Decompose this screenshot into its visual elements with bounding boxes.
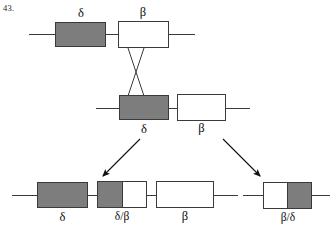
bottom-gene-beta-box xyxy=(177,94,226,121)
left-product-beta-label: β xyxy=(156,209,214,223)
bottom-beta-label: β xyxy=(177,121,226,135)
top-delta-label: δ xyxy=(56,6,106,20)
left-product-delta-beta-label: δ/β xyxy=(95,210,149,223)
left-product-gene-delta-beta-box xyxy=(97,181,147,208)
top-beta-label: β xyxy=(118,5,168,19)
left-product-gene-beta-box xyxy=(156,181,214,208)
top-gene-beta-box xyxy=(118,21,169,48)
right-product-beta-delta-label: β/δ xyxy=(261,211,315,224)
arrow-to-right-product xyxy=(223,139,260,176)
left-product-delta-label: δ xyxy=(37,210,88,224)
left-product-gene-delta-box xyxy=(37,182,88,208)
top-arm-middle xyxy=(106,34,118,35)
left-product-arm-2 xyxy=(147,195,156,196)
top-arm-left xyxy=(29,34,55,35)
top-gene-delta-box xyxy=(55,22,106,47)
right-product-gene-beta-delta-box xyxy=(263,182,312,209)
top-arm-right xyxy=(169,34,195,35)
left-product-arm-1 xyxy=(88,195,97,196)
bottom-arm-right xyxy=(226,108,250,109)
right-product-arm-end xyxy=(312,195,330,196)
figure-number: 43. xyxy=(3,3,14,13)
bottom-gene-delta-box xyxy=(119,95,169,120)
delta-beta-white-half xyxy=(122,182,147,207)
left-product-arm-end xyxy=(214,195,238,196)
arrow-to-left-product xyxy=(103,139,140,176)
figure-root: 43. δ β δ β xyxy=(0,0,332,236)
bottom-delta-label: δ xyxy=(119,122,169,136)
beta-delta-gray-half xyxy=(287,183,311,208)
left-product-arm-start xyxy=(12,195,37,196)
right-product-arm-start xyxy=(243,195,263,196)
delta-beta-gray-half xyxy=(98,182,122,207)
bottom-arm-left xyxy=(96,108,119,109)
bottom-arm-middle xyxy=(169,108,177,109)
beta-delta-white-half xyxy=(264,183,287,208)
